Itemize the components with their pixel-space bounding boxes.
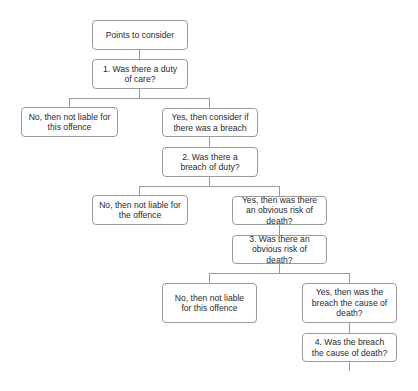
connector-q3-yes	[349, 273, 350, 283]
node-q1-duty-of-care: 1. Was there a duty of care?	[92, 59, 188, 89]
node-q2-no-label: No, then not liable for the offence	[99, 200, 181, 221]
node-q1-no-label: No, then not liable for this offence	[28, 112, 111, 133]
connector-q1-branch	[69, 98, 210, 99]
connector-q3-no	[209, 273, 210, 283]
connector-q2-no	[139, 186, 140, 195]
connector-q4-continue	[349, 362, 350, 371]
node-q3-no-label: No, then not liable for this offence	[169, 293, 250, 314]
flowchart-canvas: Points to consider 1. Was there a duty o…	[0, 0, 418, 391]
connector-q1yes-q2	[209, 137, 210, 147]
node-q3-yes: Yes, then was the breach the cause of de…	[302, 283, 397, 323]
node-q3-no: No, then not liable for this offence	[162, 283, 257, 323]
connector-q1-no	[69, 98, 70, 107]
node-q1-yes: Yes, then consider if there was a breach	[162, 108, 258, 137]
node-q1-label: 1. Was there a duty of care?	[99, 64, 181, 85]
node-q3-yes-label: Yes, then was the breach the cause of de…	[309, 287, 390, 319]
node-q1-yes-label: Yes, then consider if there was a breach	[169, 112, 251, 133]
node-q3-label: 3. Was there an obvious risk of death?	[239, 234, 320, 266]
node-q2-label: 2. Was there a breach of duty?	[169, 152, 251, 173]
connector-q1-yes	[209, 98, 210, 108]
node-q2-no: No, then not liable for the offence	[92, 195, 188, 225]
connector-q2-branch	[139, 186, 280, 187]
connector-start-q1	[139, 50, 140, 59]
node-q4-label: 4. Was the breach the cause of death?	[309, 337, 390, 358]
node-q2-breach-of-duty: 2. Was there a breach of duty?	[162, 147, 258, 177]
node-q2-yes: Yes, then was there an obvious risk of d…	[232, 196, 327, 225]
node-q4-cause-of-death: 4. Was the breach the cause of death?	[302, 333, 397, 362]
connector-q3yes-q4	[349, 323, 350, 333]
connector-q2-down	[209, 177, 210, 186]
node-q3-obvious-risk: 3. Was there an obvious risk of death?	[232, 235, 327, 264]
connector-q1-down	[139, 89, 140, 98]
node-q2-yes-label: Yes, then was there an obvious risk of d…	[239, 195, 320, 227]
connector-q3-branch	[209, 273, 350, 274]
node-start: Points to consider	[92, 20, 188, 50]
connector-q3-down	[279, 264, 280, 273]
node-start-label: Points to consider	[106, 30, 174, 41]
node-q1-no: No, then not liable for this offence	[21, 107, 118, 137]
